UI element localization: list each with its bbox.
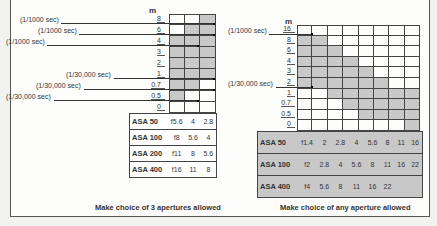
tick-text: 6 xyxy=(287,46,295,54)
asa-name: ASA 400 xyxy=(258,176,298,198)
tick-label: 0.7 xyxy=(273,99,295,106)
table-row: ASA 400f16118 xyxy=(130,162,216,178)
tick-label: 4 xyxy=(143,37,165,44)
table-row: ASA 400f45.68111622 xyxy=(258,176,422,198)
aperture-value: 2 xyxy=(316,132,332,154)
leader-dot xyxy=(197,45,199,47)
tick-text: 0 xyxy=(157,103,165,111)
table-row: ASA 200f1185.6 xyxy=(130,146,216,162)
aperture-value: 11 xyxy=(185,162,200,178)
axis-label-m: m xyxy=(149,6,156,15)
aperture-value xyxy=(394,176,408,198)
tick-text: 3 xyxy=(157,48,165,56)
asa-name: ASA 200 xyxy=(130,146,168,162)
tick-text: 4 xyxy=(287,57,295,65)
tick-text: 0.5 xyxy=(281,110,295,118)
aperture-value: 8 xyxy=(201,162,216,178)
tick-label: 0 xyxy=(273,120,295,127)
tick-text: 2 xyxy=(157,59,165,67)
tick-text: 8 xyxy=(157,15,165,23)
aperture-value: f4 xyxy=(298,176,316,198)
aperture-table: ASA 50f5.642.8ASA 100f85.64ASA 200f1185.… xyxy=(130,114,216,177)
aperture-value: 4 xyxy=(332,154,348,176)
tick-label: 0 xyxy=(143,103,165,110)
aperture-value: 4 xyxy=(185,114,200,130)
tick-label: 3 xyxy=(273,67,295,74)
tick-text: 0.5 xyxy=(151,92,165,100)
tick-label: 16 xyxy=(273,25,295,32)
aperture-table: ASA 50f1.422.845.681116ASA 100f22.845.68… xyxy=(258,132,422,197)
tick-label: 2 xyxy=(273,78,295,85)
leader-dot xyxy=(197,100,199,102)
aperture-value: 16 xyxy=(408,132,422,154)
aperture-value: 16 xyxy=(364,176,380,198)
aperture-value: f11 xyxy=(168,146,185,162)
aperture-value: 11 xyxy=(381,154,395,176)
aperture-value: 2.8 xyxy=(201,114,216,130)
leader-dot xyxy=(213,34,215,36)
table-row: ASA 100f22.845.68111622 xyxy=(258,154,422,176)
callout-label: (1/1000 sec) xyxy=(228,27,267,34)
callout-label: (1/30,000 sec) xyxy=(66,71,111,78)
tick-text: 0 xyxy=(287,120,295,128)
tick-text: 2 xyxy=(287,78,295,86)
leader-line xyxy=(276,87,313,88)
aperture-value: f2 xyxy=(298,154,316,176)
tick-text: 3 xyxy=(287,67,295,75)
leader-dot xyxy=(311,33,313,35)
tick-label: 0.5 xyxy=(143,92,165,99)
aperture-value: 16 xyxy=(394,154,408,176)
leader-line xyxy=(61,23,214,24)
leader-dot xyxy=(213,89,215,91)
aperture-value: 5.6 xyxy=(348,154,364,176)
aperture-value: 4 xyxy=(201,130,216,146)
leader-line xyxy=(84,89,214,90)
tick-text: 4 xyxy=(157,37,165,45)
table-row: ASA 50f1.422.845.681116 xyxy=(258,132,422,154)
tick-label: 8 xyxy=(143,15,165,22)
tick-text: 0.7 xyxy=(281,99,295,107)
tick-label: 4 xyxy=(273,57,295,64)
tick-text: 1 xyxy=(287,89,295,97)
aperture-value: 2.8 xyxy=(332,132,348,154)
asa-name: ASA 100 xyxy=(258,154,298,176)
callout-label: (1/1000 sec) xyxy=(20,16,59,23)
aperture-value: 8 xyxy=(332,176,348,198)
tick-label: 6 xyxy=(273,46,295,53)
aperture-value: 5.6 xyxy=(316,176,332,198)
aperture-value: 8 xyxy=(381,132,395,154)
leader-dot xyxy=(213,78,215,80)
aperture-value: 4 xyxy=(348,132,364,154)
aperture-value: f16 xyxy=(168,162,185,178)
grid-border xyxy=(297,25,420,131)
tick-label: 6 xyxy=(143,26,165,33)
asa-name: ASA 400 xyxy=(130,162,168,178)
aperture-value: 5.6 xyxy=(201,146,216,162)
aperture-value: f1.4 xyxy=(298,132,316,154)
aperture-value: 5.6 xyxy=(364,132,380,154)
leader-dot xyxy=(311,86,313,88)
leader-line xyxy=(114,78,214,79)
aperture-value: 8 xyxy=(364,154,380,176)
asa-name: ASA 100 xyxy=(130,130,168,146)
tick-text: 8 xyxy=(287,36,295,44)
aperture-value: 5.6 xyxy=(185,130,200,146)
tick-text: 0.7 xyxy=(151,81,165,89)
tick-text: 1 xyxy=(157,70,165,78)
aperture-value xyxy=(408,176,422,198)
aperture-table-left: ASA 50f5.642.8ASA 100f85.64ASA 200f1185.… xyxy=(129,113,217,178)
tick-label: 8 xyxy=(273,36,295,43)
leader-line xyxy=(79,34,214,35)
aperture-value: f8 xyxy=(168,130,185,146)
caption-right: Make choice of any aperture allowed xyxy=(280,203,410,212)
aperture-value: 11 xyxy=(394,132,408,154)
table-row: ASA 50f5.642.8 xyxy=(130,114,216,130)
tick-label: 0.7 xyxy=(143,81,165,88)
tick-text: 16 xyxy=(283,25,295,33)
tick-label: 3 xyxy=(143,48,165,55)
callout-label: (1/30,000 sec) xyxy=(6,93,51,100)
leader-line xyxy=(269,34,313,35)
callout-label: (1/1000 sec) xyxy=(38,27,77,34)
callout-label: (1/30,000 sec) xyxy=(36,82,81,89)
aperture-table-right: ASA 50f1.422.845.681116ASA 100f22.845.68… xyxy=(257,131,423,198)
